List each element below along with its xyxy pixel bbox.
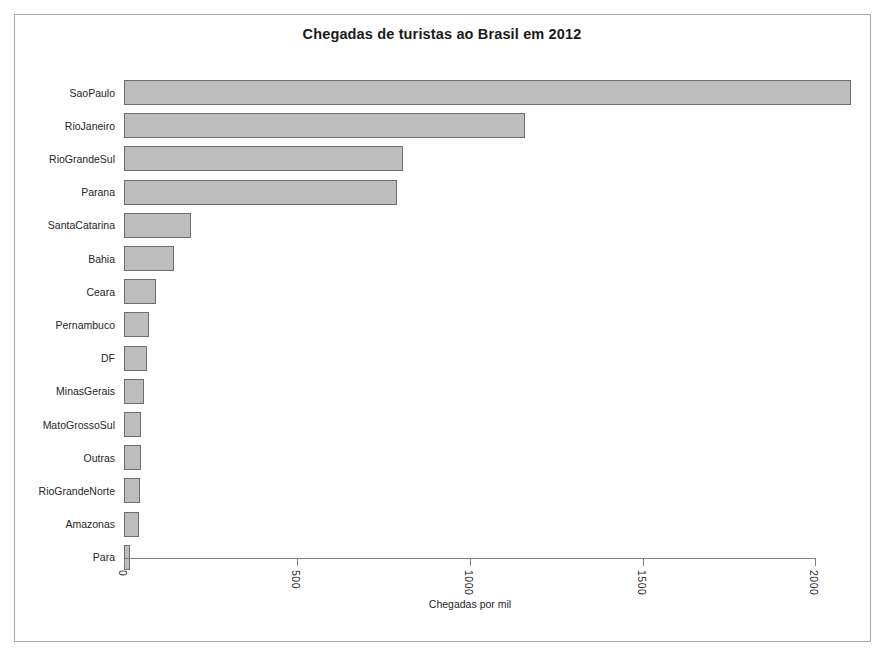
bar xyxy=(124,213,191,238)
bar-row: Ceara xyxy=(124,279,816,304)
x-axis-title: Chegadas por mil xyxy=(124,598,816,610)
category-label: MatoGrossoSul xyxy=(43,419,115,431)
x-tick-label: 1500 xyxy=(636,570,648,595)
category-label: Para xyxy=(93,551,115,563)
category-label: Parana xyxy=(81,186,115,198)
x-tick-label: 2000 xyxy=(808,570,820,595)
x-axis: 0500100015002000 xyxy=(124,558,816,566)
x-tick xyxy=(815,558,816,566)
category-label: SantaCatarina xyxy=(48,219,115,231)
bar xyxy=(124,312,149,337)
bar-row: DF xyxy=(124,346,816,371)
category-label: DF xyxy=(101,352,115,364)
x-tick-label: 0 xyxy=(117,570,129,576)
bar-row: Outras xyxy=(124,445,816,470)
chart-screenshot: Chegadas de turistas ao Brasil em 2012 S… xyxy=(0,0,884,667)
category-label: MinasGerais xyxy=(56,385,115,397)
bar-row: Parana xyxy=(124,180,816,205)
category-label: RioGrandeNorte xyxy=(39,485,115,497)
category-label: Outras xyxy=(83,452,115,464)
bar xyxy=(124,346,147,371)
chart-title: Chegadas de turistas ao Brasil em 2012 xyxy=(0,26,884,42)
bar xyxy=(124,146,403,171)
bar xyxy=(124,246,174,271)
bar-chart: Chegadas de turistas ao Brasil em 2012 S… xyxy=(0,0,884,667)
plot-area: SaoPauloRioJaneiroRioGrandeSulParanaSant… xyxy=(124,78,816,548)
bar xyxy=(124,80,851,105)
category-label: Ceara xyxy=(86,286,115,298)
category-label: RioJaneiro xyxy=(65,120,115,132)
bar xyxy=(124,279,156,304)
bar xyxy=(124,113,525,138)
category-label: RioGrandeSul xyxy=(49,153,115,165)
bar-row: Pernambuco xyxy=(124,312,816,337)
x-tick xyxy=(643,558,644,566)
x-tick xyxy=(470,558,471,566)
category-label: SaoPaulo xyxy=(69,87,115,99)
category-label: Bahia xyxy=(88,253,115,265)
category-label: Pernambuco xyxy=(55,319,115,331)
x-tick xyxy=(297,558,298,566)
bar-row: Amazonas xyxy=(124,512,816,537)
bar xyxy=(124,478,140,503)
bar xyxy=(124,379,144,404)
category-label: Amazonas xyxy=(65,518,115,530)
bar xyxy=(124,445,141,470)
x-tick-label: 500 xyxy=(290,570,302,589)
x-tick-label: 1000 xyxy=(463,570,475,595)
bar-row: RioGrandeSul xyxy=(124,146,816,171)
bar xyxy=(124,512,139,537)
bar-row: RioGrandeNorte xyxy=(124,478,816,503)
bar-row: RioJaneiro xyxy=(124,113,816,138)
bar-row: MinasGerais xyxy=(124,379,816,404)
bar-row: SaoPaulo xyxy=(124,80,816,105)
x-tick xyxy=(124,558,125,566)
bar-row: Bahia xyxy=(124,246,816,271)
bar-row: SantaCatarina xyxy=(124,213,816,238)
bar xyxy=(124,412,141,437)
bar-row: MatoGrossoSul xyxy=(124,412,816,437)
bar xyxy=(124,180,397,205)
